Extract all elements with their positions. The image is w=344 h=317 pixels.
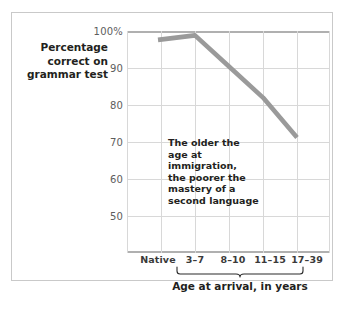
x-tick-label: 8–10 <box>221 254 246 265</box>
annotation-line-4: mastery of a <box>168 183 272 195</box>
gridline-vertical <box>127 31 128 253</box>
y-tick-label: 80 <box>110 100 123 111</box>
y-axis-ticks: 100% 90 80 70 60 50 <box>76 31 123 253</box>
annotation-line-5: second language <box>168 195 272 207</box>
x-tick-label: Native <box>140 254 175 265</box>
annotation-line-3: the poorer the <box>168 172 272 184</box>
x-tick-label: 17–39 <box>291 254 323 265</box>
annotation-line-2: age at immigration, <box>168 149 272 172</box>
x-axis-title: Age at arrival, in years <box>150 280 330 292</box>
y-tick-label: 70 <box>110 137 123 148</box>
gridline-vertical <box>297 31 298 253</box>
y-tick-label: 60 <box>110 174 123 185</box>
y-tick-label: 50 <box>110 211 123 222</box>
x-tick-label: 11–15 <box>254 254 286 265</box>
annotation-line-1: The older the <box>168 137 272 149</box>
y-tick-label: 100% <box>94 26 123 37</box>
figure-container: Percentage correct on grammar test 100% … <box>0 0 344 317</box>
age-range-brace-icon <box>176 266 304 278</box>
gridline-vertical <box>329 31 330 253</box>
gridline-vertical <box>161 31 162 253</box>
y-tick-label: 90 <box>110 63 123 74</box>
chart-annotation: The older the age at immigration, the po… <box>168 137 272 207</box>
x-tick-label: 3–7 <box>186 254 204 265</box>
